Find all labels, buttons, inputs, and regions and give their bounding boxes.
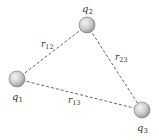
label-r12: r12	[41, 39, 54, 51]
line-r12	[17, 25, 87, 79]
charge-q2-sphere	[79, 17, 95, 33]
charge-q3-sphere	[134, 102, 150, 118]
line-r23	[87, 25, 142, 110]
label-r23: r23	[115, 52, 128, 64]
three-charge-diagram: q2 q1 q3 r12 r23 r13	[0, 0, 159, 140]
label-q1: q1	[12, 91, 23, 104]
label-r13: r13	[68, 95, 81, 107]
label-q3: q3	[137, 122, 148, 135]
label-q2: q2	[82, 3, 93, 16]
charge-q1-sphere	[9, 71, 25, 87]
